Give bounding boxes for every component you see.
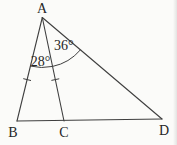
angle-label-BAC: 28° [31, 54, 51, 69]
vertex-label-A: A [37, 1, 48, 16]
vertex-label-D: D [159, 123, 169, 138]
angle-label-CAD: 36° [54, 38, 74, 53]
diagram-lines-layer [17, 18, 162, 122]
triangle-geometry-diagram: A B C D 28° 36° [0, 0, 177, 145]
vertex-label-B: B [8, 125, 17, 140]
segment-AB [17, 18, 42, 122]
segment-BD [17, 119, 162, 121]
vertex-label-C: C [59, 125, 68, 140]
